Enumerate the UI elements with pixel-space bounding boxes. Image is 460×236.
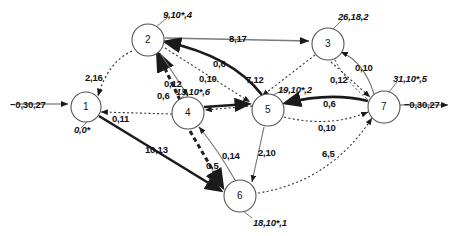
edge-1-2 bbox=[98, 51, 132, 96]
edge-label-1-2: 2,16 bbox=[85, 72, 103, 83]
edge-label-5-6: 2,10 bbox=[258, 147, 276, 158]
node-label-1: 1 bbox=[83, 101, 89, 112]
edge-label-7-5: 0,6 bbox=[323, 98, 336, 109]
leader-node-6 bbox=[243, 211, 252, 218]
edge-label-4-1: 0,11 bbox=[112, 113, 129, 124]
node-label-6: 6 bbox=[237, 190, 243, 201]
edge-label-4-6: 0,5 bbox=[206, 160, 219, 171]
node-annotation-1: 0,0* bbox=[74, 124, 90, 135]
edge-4-6-thick bbox=[190, 131, 222, 186]
edge-label-2-5-b: 0,10 bbox=[199, 73, 217, 84]
node-annotation-6: 18,10*,1 bbox=[253, 217, 287, 228]
node-annotation-5: 19,10*,2 bbox=[278, 84, 312, 95]
network-flow-diagram: 1 2 3 4 5 6 7 0,0* 9,10*,4 26,18,2 13,10… bbox=[0, 0, 460, 236]
edge-label-7-3-a: 0,10 bbox=[355, 62, 373, 73]
node-annotation-7: 31,10*,5 bbox=[393, 73, 427, 84]
node-label-4: 4 bbox=[185, 107, 191, 118]
edge-label-6-7: 6,5 bbox=[322, 148, 335, 159]
edge-label-5-3: 7,12 bbox=[246, 74, 264, 85]
edge-label-3-7-b: 0,12 bbox=[330, 74, 348, 85]
edge-label-1-6: 10,13 bbox=[145, 144, 168, 155]
edge-7-3 bbox=[341, 52, 374, 94]
edge-label-4-2-b: 0,6 bbox=[157, 90, 170, 101]
edge-label-6-4: 0,14 bbox=[222, 150, 240, 161]
edge-4-5-thick bbox=[204, 104, 248, 107]
edge-label-2-5-a: 0,6 bbox=[213, 58, 226, 69]
node-annotation-2: 9,10*,4 bbox=[163, 9, 192, 20]
edge-label-5-7: 0,10 bbox=[318, 122, 336, 133]
node-label-7: 7 bbox=[381, 101, 387, 112]
node-label-2: 2 bbox=[145, 34, 151, 45]
external-source-label: −0,30,27 bbox=[10, 99, 46, 110]
node-label-5: 5 bbox=[265, 104, 271, 115]
edge-label-2-4-a: 0,12 bbox=[164, 78, 182, 89]
edge-label-2-3: 8,17 bbox=[229, 33, 247, 44]
node-annotation-3: 26,18,2 bbox=[338, 11, 368, 22]
edge-5-7 bbox=[284, 112, 368, 121]
node-label-3: 3 bbox=[325, 38, 331, 49]
external-sink-label: −0,30,27 bbox=[404, 99, 440, 110]
